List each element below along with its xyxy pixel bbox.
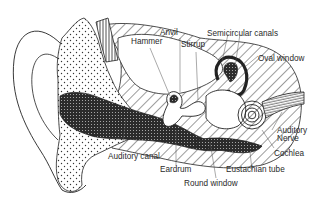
ossicle-dark (170, 95, 178, 103)
label-round-window: Round window (184, 180, 238, 188)
label-stirrup: Stirrup (181, 41, 205, 49)
label-hammer: Hammer (131, 38, 162, 46)
vestibule (206, 90, 246, 129)
label-oval-window: Oval window (258, 55, 304, 63)
label-auditory-canal: Auditory canal (108, 153, 160, 161)
label-eardrum: Eardrum (160, 166, 191, 174)
label-auditory-nerve-2: Nerve (277, 135, 299, 143)
label-eustachian-tube: Eustachian tube (226, 166, 285, 174)
label-anvil: Anvil (160, 29, 178, 37)
label-semicircular-canals: Semicircular canals (207, 30, 278, 38)
label-cochlea: Cochlea (274, 150, 304, 158)
